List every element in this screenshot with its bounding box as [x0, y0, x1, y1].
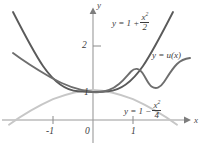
x-tick-label-minus1: -1 [46, 126, 54, 136]
numerator-exponent: 2 [157, 99, 160, 105]
plot-canvas [0, 0, 205, 150]
x-tick-label-0: 0 [85, 126, 90, 136]
curve-label-upper-lhs: y = 1 + [112, 18, 139, 28]
x-tick-label-1: 1 [131, 126, 136, 136]
x-axis-label: x [194, 115, 198, 125]
curve-label-upper-fraction: x22 [140, 13, 149, 33]
y-tick-label-2: 2 [82, 40, 87, 50]
curve-label-middle: y = u(x) [152, 51, 181, 60]
curve-label-lower: y = 1 −x24 [124, 101, 162, 121]
fraction-denominator: 2 [140, 23, 149, 32]
numerator-exponent: 2 [145, 11, 148, 17]
y-tick-label-1: 1 [84, 87, 89, 97]
y-axis-label: y [97, 0, 101, 10]
curve-label-lower-fraction: x24 [152, 101, 161, 121]
curve-label-upper: y = 1 +x22 [112, 13, 150, 33]
graph-figure: y x -1 0 1 1 2 y = 1 +x22 y = u(x) y = 1… [0, 0, 205, 150]
x-axis-arrow-icon [184, 117, 191, 124]
y-axis-arrow-icon [90, 8, 97, 15]
curve-label-lower-lhs: y = 1 − [124, 106, 151, 116]
fraction-denominator: 4 [152, 111, 161, 120]
